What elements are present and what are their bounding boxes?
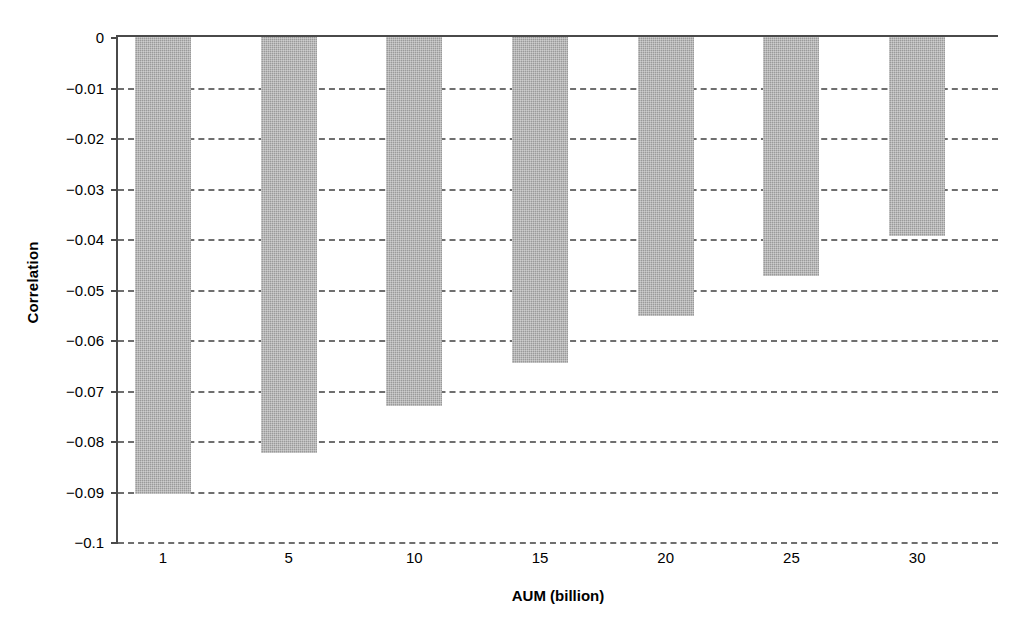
y-axis-tick bbox=[111, 88, 118, 90]
y-axis-tick bbox=[111, 441, 118, 443]
x-axis-tick-label: 25 bbox=[783, 549, 800, 566]
x-axis-tick-label: 30 bbox=[909, 549, 926, 566]
y-axis-tick-label: −0.06 bbox=[66, 332, 104, 349]
y-axis-tick bbox=[111, 138, 118, 140]
bar bbox=[889, 37, 945, 236]
y-axis-tick-label: −0.03 bbox=[66, 180, 104, 197]
bar bbox=[512, 37, 568, 363]
bar bbox=[261, 37, 317, 453]
bar bbox=[638, 37, 694, 316]
x-axis-tick-label: 15 bbox=[532, 549, 549, 566]
y-axis-tick-label: −0.04 bbox=[66, 231, 104, 248]
x-axis-tick-label: 1 bbox=[159, 549, 167, 566]
chart-figure: Correlation 0−0.01−0.02−0.03−0.04−0.05−0… bbox=[0, 0, 1018, 618]
y-axis-tick bbox=[111, 189, 118, 191]
y-axis-tick bbox=[111, 391, 118, 393]
bar bbox=[135, 37, 191, 494]
y-axis-tick-label: −0.05 bbox=[66, 281, 104, 298]
y-axis-tick-label: 0 bbox=[96, 29, 104, 46]
gridline bbox=[118, 542, 998, 544]
gridline bbox=[118, 492, 998, 494]
x-axis-tick-label: 20 bbox=[657, 549, 674, 566]
y-axis-tick bbox=[111, 492, 118, 494]
y-axis-tick-label: −0.07 bbox=[66, 382, 104, 399]
x-axis-tick-label: 10 bbox=[406, 549, 423, 566]
y-axis-tick-label: −0.02 bbox=[66, 130, 104, 147]
y-axis-tick-label: −0.08 bbox=[66, 433, 104, 450]
bar bbox=[386, 37, 442, 406]
gridline bbox=[118, 441, 998, 443]
y-axis-tick-label: −0.01 bbox=[66, 79, 104, 96]
y-axis-tick bbox=[111, 37, 118, 39]
bar bbox=[763, 37, 819, 276]
y-axis-tick-label: −0.09 bbox=[66, 483, 104, 500]
y-axis-tick bbox=[111, 542, 118, 544]
y-axis-tick bbox=[111, 239, 118, 241]
y-axis-tick bbox=[111, 340, 118, 342]
x-axis-title: AUM (billion) bbox=[118, 587, 998, 604]
plot-area: 0−0.01−0.02−0.03−0.04−0.05−0.06−0.07−0.0… bbox=[116, 35, 998, 542]
gridline bbox=[118, 391, 998, 393]
x-axis-tick-label: 5 bbox=[284, 549, 292, 566]
y-axis-title: Correlation bbox=[24, 173, 41, 393]
y-axis-tick bbox=[111, 290, 118, 292]
y-axis-tick-label: −0.1 bbox=[74, 534, 104, 551]
